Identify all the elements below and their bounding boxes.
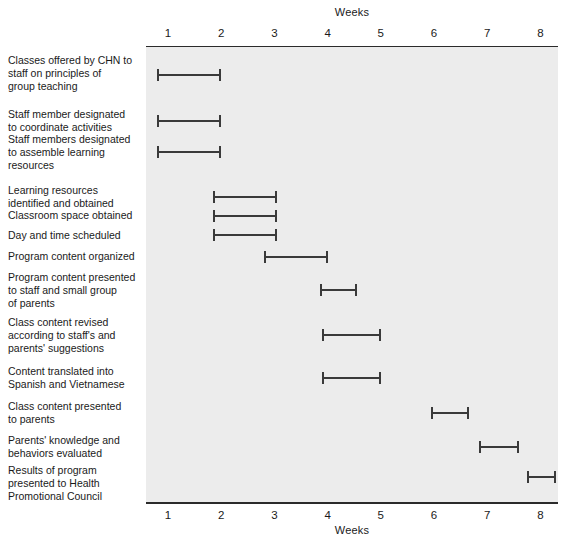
task-bar-stem: [527, 476, 556, 478]
task-label: Parents' knowledge andbehaviors evaluate…: [8, 434, 142, 460]
task-bar: [213, 210, 277, 222]
task-label: Program content presentedto staff and sm…: [8, 271, 142, 311]
top-tick-4: 4: [316, 27, 340, 39]
bottom-axis-line: [146, 502, 558, 504]
bottom-tick-2: 2: [209, 509, 233, 521]
task-bar-stem: [322, 334, 381, 336]
task-label-line: group teaching: [8, 80, 142, 93]
task-bar: [213, 229, 277, 241]
task-bar-stem: [479, 446, 519, 448]
task-label-line: to assemble learning: [8, 146, 142, 159]
top-tick-7: 7: [475, 27, 499, 39]
task-bar-stem: [157, 151, 221, 153]
task-label-line: to staff and small group: [8, 284, 142, 297]
task-bar-end-cap: [517, 441, 519, 453]
task-label-line: Class content revised: [8, 316, 142, 329]
task-bar: [527, 471, 556, 483]
task-bar-stem: [320, 289, 357, 291]
task-label: Content translated intoSpanish and Vietn…: [8, 365, 142, 391]
task-bar-end-cap: [326, 251, 328, 263]
task-label-line: resources: [8, 159, 142, 172]
task-label: Results of programpresented to HealthPro…: [8, 464, 142, 504]
task-label-line: Results of program: [8, 464, 142, 477]
task-label-line: Program content organized: [8, 250, 142, 263]
task-label-line: Spanish and Vietnamese: [8, 378, 142, 391]
task-label-line: Class content presented: [8, 400, 142, 413]
task-bar-end-cap: [219, 69, 221, 81]
top-tick-5: 5: [369, 27, 393, 39]
task-label: Learning resourcesidentified and obtaine…: [8, 184, 142, 210]
task-bar-end-cap: [219, 146, 221, 158]
task-bar-end-cap: [275, 210, 277, 222]
task-label-line: staff on principles of: [8, 67, 142, 80]
task-label-line: Program content presented: [8, 271, 142, 284]
task-label-line: to parents: [8, 413, 142, 426]
task-bar: [320, 284, 357, 296]
task-bar-stem: [213, 215, 277, 217]
task-label-line: according to staff's and: [8, 329, 142, 342]
task-bar-end-cap: [379, 329, 381, 341]
task-label: Classes offered by CHN tostaff on princi…: [8, 54, 142, 94]
bottom-tick-8: 8: [528, 509, 552, 521]
task-bar: [479, 441, 519, 453]
task-label-line: Content translated into: [8, 365, 142, 378]
task-bar: [322, 372, 381, 384]
top-tick-1: 1: [156, 27, 180, 39]
task-bar: [431, 407, 468, 419]
task-label-line: Classroom space obtained: [8, 209, 142, 222]
task-label-line: Promotional Council: [8, 490, 142, 503]
task-bar-end-cap: [467, 407, 469, 419]
task-bar-stem: [157, 74, 221, 76]
top-tick-8: 8: [528, 27, 552, 39]
task-label-line: of parents: [8, 297, 142, 310]
task-bar-end-cap: [219, 115, 221, 127]
chart-top-axis-title: Weeks: [146, 6, 558, 18]
task-label: Staff member designatedto coordinate act…: [8, 108, 142, 134]
task-label-line: Staff member designated: [8, 108, 142, 121]
task-bar-stem: [157, 120, 221, 122]
task-label-line: parents' suggestions: [8, 342, 142, 355]
task-bar-end-cap: [379, 372, 381, 384]
top-tick-6: 6: [422, 27, 446, 39]
task-bar: [157, 146, 221, 158]
task-bar-stem: [213, 234, 277, 236]
task-label-line: Staff members designated: [8, 133, 142, 146]
task-bar-stem: [264, 256, 328, 258]
bottom-tick-1: 1: [156, 509, 180, 521]
task-label: Program content organized: [8, 250, 142, 263]
task-bar-end-cap: [554, 471, 556, 483]
task-label: Class content presentedto parents: [8, 400, 142, 426]
task-bar: [157, 69, 221, 81]
task-label-line: Day and time scheduled: [8, 229, 142, 242]
task-label-line: Classes offered by CHN to: [8, 54, 142, 67]
task-bar-end-cap: [355, 284, 357, 296]
top-tick-3: 3: [262, 27, 286, 39]
task-bar-stem: [322, 377, 381, 379]
task-bar-stem: [431, 412, 468, 414]
task-label-line: Parents' knowledge and: [8, 434, 142, 447]
gantt-chart-figure: Weeks 12345678 12345678 Weeks Classes of…: [0, 0, 570, 543]
task-label: Class content revisedaccording to staff'…: [8, 316, 142, 356]
task-label: Staff members designatedto assemble lear…: [8, 133, 142, 173]
task-label-line: presented to Health: [8, 477, 142, 490]
task-bar-stem: [213, 196, 277, 198]
task-bar: [264, 251, 328, 263]
bottom-tick-5: 5: [369, 509, 393, 521]
bottom-tick-7: 7: [475, 509, 499, 521]
bottom-tick-6: 6: [422, 509, 446, 521]
top-tick-2: 2: [209, 27, 233, 39]
bottom-tick-4: 4: [316, 509, 340, 521]
chart-bottom-axis-title: Weeks: [146, 524, 558, 536]
task-bar-end-cap: [275, 191, 277, 203]
task-bar: [213, 191, 277, 203]
task-bar-end-cap: [275, 229, 277, 241]
task-label: Classroom space obtained: [8, 209, 142, 222]
task-label-line: behaviors evaluated: [8, 447, 142, 460]
task-bar: [322, 329, 381, 341]
task-bar: [157, 115, 221, 127]
task-label-line: Learning resources: [8, 184, 142, 197]
bottom-tick-3: 3: [262, 509, 286, 521]
task-label: Day and time scheduled: [8, 229, 142, 242]
